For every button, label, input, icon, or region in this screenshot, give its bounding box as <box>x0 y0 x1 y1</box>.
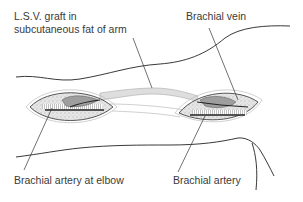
label-brachial-vein: Brachial vein <box>186 10 246 22</box>
label-brachial-artery: Brachial artery <box>173 174 241 186</box>
label-lsv-graft-line1: L.S.V. graft in <box>14 10 77 22</box>
elbow-crease <box>252 143 257 190</box>
arm-outline-lower <box>16 138 274 176</box>
leader-lsv-graft <box>133 38 152 88</box>
label-lsv-graft-line2: subcutaneous fat of arm <box>14 23 127 35</box>
leader-brachial-artery-elbow <box>24 108 52 170</box>
lsv-graft-tube <box>100 88 198 101</box>
graft-lower-line <box>110 104 185 117</box>
label-brachial-artery-elbow: Brachial artery at elbow <box>14 174 124 186</box>
